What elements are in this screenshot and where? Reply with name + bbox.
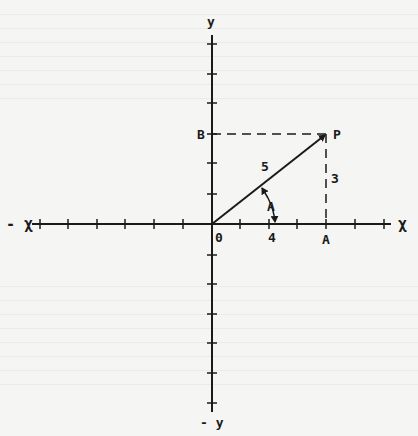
x-axis-negative-label: - χ [6, 215, 33, 233]
horizontal-length-label: 4 [268, 230, 276, 245]
vertical-length-label: 3 [331, 171, 339, 186]
point-b-label: B [197, 127, 205, 142]
y-axis-negative-label: - y [200, 415, 224, 430]
angle-label: A [267, 199, 275, 214]
y-axis-positive-label: y [207, 14, 215, 29]
point-p-label: P [333, 127, 341, 142]
coordinate-diagram: y - y χ - χ 0 4 A B P 5 3 A [0, 0, 418, 436]
hypotenuse-length-label: 5 [261, 159, 269, 174]
angle-arc-start [262, 188, 268, 198]
x-axis-positive-label: χ [398, 215, 407, 233]
origin-label: 0 [215, 230, 223, 245]
point-a-label: A [322, 232, 330, 247]
